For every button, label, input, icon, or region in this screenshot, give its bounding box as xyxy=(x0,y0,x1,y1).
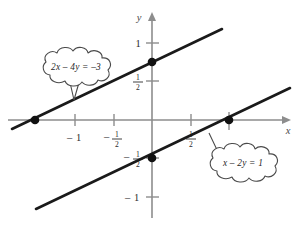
y-axis-arrowhead xyxy=(148,12,156,21)
y-axis-label: y xyxy=(136,12,142,23)
point-upper-x-intercept xyxy=(31,116,40,125)
point-upper-y-intercept xyxy=(148,58,157,67)
point-lower-x-intercept xyxy=(225,116,234,125)
coordinate-graph-figure: y x – 1 – 1 2 1 2 1 1 2 – 1 2 xyxy=(0,0,302,225)
x-neg-half-minus: – xyxy=(103,131,110,142)
x-tick-label-neg-half: – 1 2 xyxy=(103,130,122,149)
y-neg-half-numerator: 1 xyxy=(136,150,140,159)
x-neg-one-minus: – xyxy=(66,132,73,143)
y-tick-label-one: 1 xyxy=(135,38,140,49)
x-neg-half-denominator: 2 xyxy=(115,140,119,149)
y-neg-half-minus: – xyxy=(123,151,130,162)
y-tick-label-neg-one: – 1 xyxy=(124,192,139,203)
callout-upper-text: 2x – 4y = –3 xyxy=(51,62,101,72)
y-neg-one-minus: – xyxy=(124,192,131,203)
y-half-denominator: 2 xyxy=(136,83,140,92)
x-axis-arrowhead xyxy=(282,116,291,124)
x-tick-label-neg-one: – 1 xyxy=(66,132,81,143)
callout-upper-equation: 2x – 4y = –3 xyxy=(43,47,110,100)
x-neg-half-numerator: 1 xyxy=(115,130,119,139)
y-tick-label-half: 1 2 xyxy=(133,73,143,92)
y-half-numerator: 1 xyxy=(136,73,140,82)
callout-lower-text: x – 2y = 1 xyxy=(222,158,263,168)
x-neg-one-value: 1 xyxy=(76,132,81,143)
y-neg-one-value: 1 xyxy=(134,192,139,203)
callout-lower-equation: x – 2y = 1 xyxy=(209,133,277,182)
x-axis-label: x xyxy=(285,125,291,136)
point-lower-y-intercept xyxy=(148,154,157,163)
x-pos-half-denominator: 2 xyxy=(189,140,193,149)
